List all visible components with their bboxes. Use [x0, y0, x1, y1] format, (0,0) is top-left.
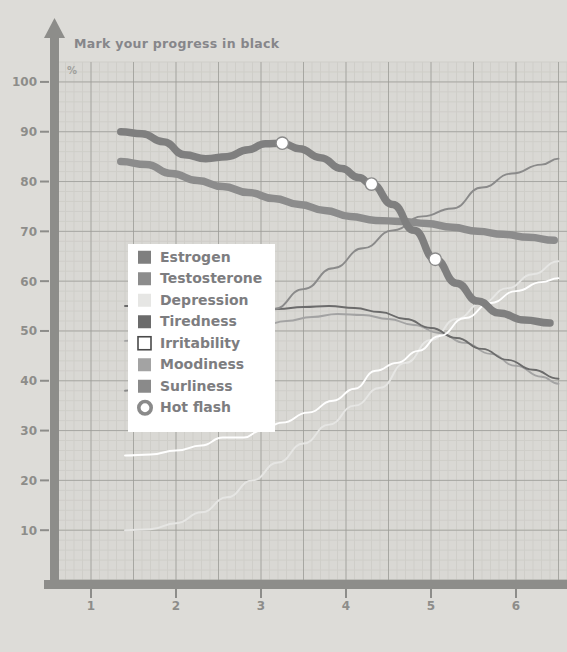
legend-swatch-icon: [138, 294, 151, 307]
y-axis-unit-label: %: [67, 65, 77, 76]
y-tick-label: 60: [20, 275, 37, 289]
hot-flash-marker: [365, 178, 377, 190]
x-tick-label: 2: [172, 599, 180, 613]
y-tick-label: 20: [20, 474, 37, 488]
x-tick-label: 5: [427, 599, 435, 613]
y-tick-label: 30: [20, 424, 37, 438]
legend-swatch-outlined-icon: [138, 337, 151, 350]
legend-item-label: Depression: [160, 292, 249, 308]
chart-title: Mark your progress in black: [74, 36, 280, 51]
legend-item-label: Tiredness: [160, 313, 237, 329]
x-tick-label: 6: [512, 599, 520, 613]
hot-flash-marker: [429, 253, 441, 265]
legend-swatch-icon: [138, 251, 151, 264]
legend-item-label: Hot flash: [160, 399, 231, 415]
y-axis: [50, 34, 59, 584]
legend-item-label: Surliness: [160, 378, 233, 394]
y-tick-label: 90: [20, 125, 37, 139]
x-axis: [44, 580, 567, 589]
y-tick-label: 40: [20, 374, 37, 388]
hot-flash-marker: [276, 137, 288, 149]
progress-line-chart: 102030405060708090100123456 Mark your pr…: [0, 0, 567, 652]
y-tick-label: 70: [20, 225, 37, 239]
x-tick-label: 4: [342, 599, 350, 613]
legend-item-label: Irritability: [160, 335, 240, 351]
legend-swatch-icon: [138, 358, 151, 371]
y-tick-label: 50: [20, 324, 37, 338]
chart-legend[interactable]: EstrogenTestosteroneDepressionTirednessI…: [128, 244, 275, 432]
x-tick-label: 3: [257, 599, 265, 613]
y-tick-label: 100: [12, 75, 37, 89]
chart-container: 102030405060708090100123456 Mark your pr…: [0, 0, 567, 652]
y-tick-label: 80: [20, 175, 37, 189]
legend-swatch-icon: [138, 380, 151, 393]
legend-item-label: Estrogen: [160, 249, 231, 265]
legend-item-label: Testosterone: [160, 270, 262, 286]
x-tick-label: 1: [87, 599, 95, 613]
legend-swatch-icon: [138, 272, 151, 285]
legend-item-label: Moodiness: [160, 356, 244, 372]
y-tick-label: 10: [20, 524, 37, 538]
legend-swatch-icon: [138, 315, 151, 328]
